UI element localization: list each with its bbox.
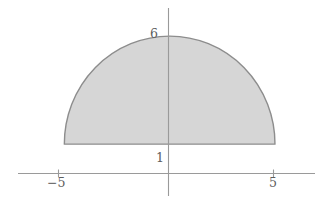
label-y-base: 1 bbox=[156, 152, 164, 165]
figure-canvas bbox=[0, 0, 331, 203]
label-y-top: 6 bbox=[150, 28, 158, 41]
label-x-plus5: 5 bbox=[269, 177, 277, 190]
figure-container: 6 1 −5 5 bbox=[0, 0, 331, 203]
label-x-minus5: −5 bbox=[47, 177, 65, 190]
shaded-region bbox=[64, 36, 275, 144]
